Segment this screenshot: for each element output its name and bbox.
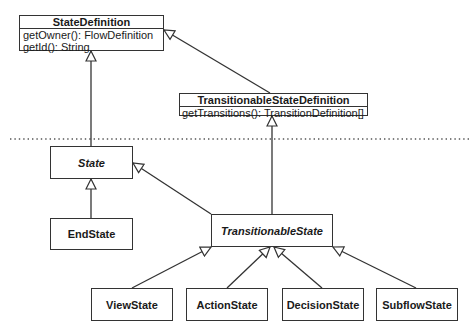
class-name: ActionState — [196, 299, 257, 311]
class-transitionable-state-definition: TransitionableStateDefinition getTransit… — [179, 93, 368, 116]
class-decision-state: DecisionState — [282, 288, 364, 321]
edge-subflowstate-to-ts — [333, 247, 416, 288]
edge-tsd-to-statedefinition — [164, 30, 270, 93]
class-end-state: EndState — [50, 218, 133, 250]
class-action-state: ActionState — [186, 288, 268, 321]
class-state-definition: StateDefinition getOwner(): FlowDefiniti… — [19, 15, 164, 51]
class-name: EndState — [68, 228, 116, 240]
class-name: TransitionableStateDefinition — [180, 94, 367, 107]
class-name: TransitionableState — [221, 225, 323, 237]
class-subflow-state: SubflowState — [376, 288, 458, 321]
edge-actionstate-to-ts — [227, 247, 270, 288]
operation-get-owner: getOwner(): FlowDefinition — [20, 29, 163, 41]
class-transitionable-state: TransitionableState — [211, 214, 333, 247]
class-view-state: ViewState — [91, 288, 173, 321]
edge-viewstate-to-ts — [132, 247, 211, 288]
class-state: State — [50, 146, 133, 179]
class-name: SubflowState — [382, 299, 452, 311]
edge-ts-to-state — [133, 163, 211, 214]
edge-decisionstate-to-ts — [274, 247, 322, 288]
class-name: State — [78, 157, 105, 169]
class-name: ViewState — [106, 299, 158, 311]
operation-get-id: getId(): String — [20, 41, 163, 53]
class-name: DecisionState — [287, 299, 360, 311]
operation-get-transitions: getTransitions(): TransitionDefinition[] — [180, 107, 367, 119]
class-name: StateDefinition — [20, 16, 163, 29]
